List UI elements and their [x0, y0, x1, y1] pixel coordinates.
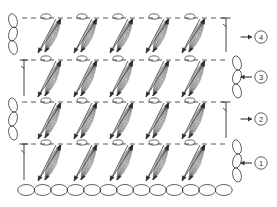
treble-arrow-head	[38, 134, 42, 139]
treble-arrow-head	[74, 134, 78, 139]
top-chain-loop	[149, 14, 159, 19]
treble-arrow-head	[182, 48, 186, 53]
top-chain-loop	[185, 14, 195, 19]
foundation-chain-link	[18, 185, 35, 196]
crossed-treble-bar	[38, 145, 61, 181]
foundation-chain-link	[133, 185, 150, 196]
foundation-chain-link	[149, 185, 166, 196]
foundation-chain-link	[51, 185, 68, 196]
crossed-treble-bar	[146, 145, 169, 181]
edge-chain-loop	[7, 39, 19, 55]
stitch-row	[20, 139, 243, 183]
crossed-treble-bar	[182, 145, 205, 181]
crossed-treble-bar	[110, 19, 133, 53]
edge-chain-loop	[231, 153, 243, 169]
stitch-rows-layer	[7, 13, 243, 183]
row-number-label: 3	[259, 73, 263, 82]
crossed-treble-bar	[146, 61, 169, 97]
stitch-row	[7, 13, 230, 56]
stitch-row	[20, 55, 243, 99]
top-chain-loop	[41, 140, 51, 145]
top-chain-loop	[149, 56, 159, 61]
crossed-treble-bar	[74, 61, 97, 97]
crossed-treble-bar	[38, 103, 61, 139]
foundation-chain-link	[182, 185, 199, 196]
top-chain-loop	[149, 98, 159, 103]
crossed-treble-bar	[110, 61, 133, 97]
row-marker[interactable]: 3	[241, 71, 268, 83]
crochet-chart-canvas: 4321	[0, 0, 277, 207]
edge-chain-loop	[7, 13, 19, 29]
top-chain-loop	[113, 98, 123, 103]
row-number-label: 2	[259, 115, 263, 124]
crossed-treble-bar	[74, 145, 97, 181]
treble-arrow-head	[182, 134, 186, 139]
treble-arrow-head	[110, 176, 114, 181]
top-chain-loop	[113, 14, 123, 19]
treble-arrow-head	[38, 176, 42, 181]
row-number-label: 4	[259, 33, 263, 42]
top-chain-loop	[77, 98, 87, 103]
top-chain-loop	[113, 140, 123, 145]
foundation-chain-link	[100, 185, 117, 196]
foundation-chain-link	[166, 185, 183, 196]
row-marker[interactable]: 2	[241, 113, 268, 125]
treble-arrow-head	[74, 48, 78, 53]
top-chain-loop	[185, 140, 195, 145]
edge-chain-loop	[231, 83, 243, 99]
crochet-pattern-diagram: 4321	[0, 0, 277, 207]
treble-arrow-head	[38, 48, 42, 53]
foundation-chain-link	[117, 185, 134, 196]
row-direction-arrow-head	[248, 34, 252, 39]
row-marker[interactable]: 4	[241, 31, 268, 43]
treble-arrow-head	[146, 48, 150, 53]
row-number-label: 1	[259, 159, 263, 168]
top-chain-loop	[185, 56, 195, 61]
row-markers-layer: 4321	[241, 31, 268, 169]
top-chain-loop	[113, 56, 123, 61]
top-chain-loop	[149, 140, 159, 145]
crossed-treble-bar	[38, 61, 61, 97]
foundation-chain-link	[34, 185, 51, 196]
top-chain-loop	[41, 14, 51, 19]
foundation-chain-link	[67, 185, 84, 196]
top-chain-loop	[77, 140, 87, 145]
treble-arrow-head	[110, 48, 114, 53]
foundation-chain-link	[215, 185, 232, 196]
treble-arrow-head	[74, 92, 78, 97]
crossed-treble-bar	[146, 103, 169, 139]
foundation-chain-link	[84, 185, 101, 196]
treble-arrow-head	[110, 134, 114, 139]
crossed-treble-bar	[74, 103, 97, 139]
edge-chain-loop	[7, 125, 19, 141]
crossed-treble-bar	[74, 19, 97, 53]
top-chain-loop	[77, 14, 87, 19]
edge-chain-loop	[231, 139, 243, 155]
crossed-treble-bar	[110, 103, 133, 139]
foundation-chain-layer	[18, 185, 233, 196]
crossed-treble-bar	[38, 19, 61, 53]
top-chain-loop	[185, 98, 195, 103]
treble-arrow-head	[38, 92, 42, 97]
top-chain-loop	[77, 56, 87, 61]
edge-chain-loop	[7, 111, 19, 127]
treble-arrow-head	[146, 176, 150, 181]
crossed-treble-bar	[182, 19, 205, 53]
edge-chain-loop	[7, 97, 19, 113]
treble-arrow-head	[74, 176, 78, 181]
treble-arrow-head	[110, 92, 114, 97]
stitch-row	[7, 97, 230, 141]
crossed-treble-bar	[182, 103, 205, 139]
row-marker[interactable]: 1	[241, 157, 268, 169]
crossed-treble-bar	[182, 61, 205, 97]
treble-arrow-head	[182, 176, 186, 181]
foundation-chain-link	[199, 185, 216, 196]
edge-chain-loop	[231, 167, 243, 183]
treble-arrow-head	[182, 92, 186, 97]
treble-arrow-head	[146, 92, 150, 97]
crossed-treble-bar	[146, 19, 169, 53]
row-direction-arrow-head	[248, 116, 252, 121]
crossed-treble-bar	[110, 145, 133, 181]
foundation-chain	[18, 185, 233, 196]
edge-chain-loop	[231, 55, 243, 71]
